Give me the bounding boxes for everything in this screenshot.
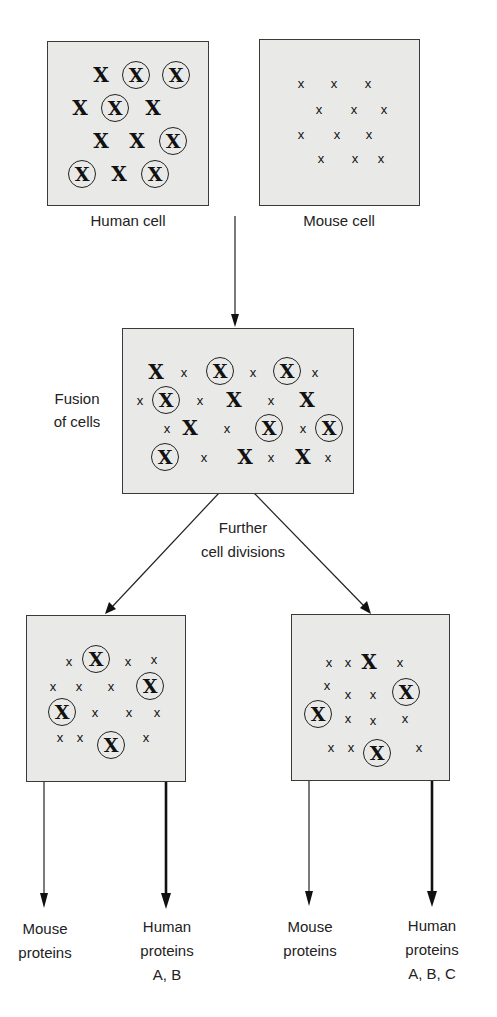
circled-human-chromosome-icon: X [315, 414, 343, 442]
circled-human-chromosome-icon: X [101, 94, 129, 122]
mouse-chromosome-icon: x [57, 731, 64, 744]
mouse-chromosome-icon: x [324, 679, 331, 692]
mouse-chromosome-icon: x [370, 714, 377, 727]
mouse-chromosome-icon: x [197, 394, 204, 407]
human-chromosome-icon: X [93, 131, 109, 151]
mouse-chromosome-icon: x [92, 706, 99, 719]
circled-human-chromosome-icon: X [151, 443, 179, 471]
mouse-chromosome-icon: x [416, 741, 423, 754]
mouse-chromosome-icon: x [268, 394, 275, 407]
circled-human-chromosome-icon: X [273, 357, 301, 385]
mouse-chromosome-icon: x [300, 422, 307, 435]
circled-human-chromosome-icon: X [304, 700, 332, 728]
circled-human-chromosome-icon: X [136, 672, 164, 700]
circled-human-chromosome-icon: X [48, 698, 76, 726]
human-chromosome-icon: X [237, 447, 253, 467]
mouse-chromosome-icon: x [316, 103, 323, 116]
fusion-label-line1: Fusion [32, 390, 122, 408]
mouse-chromosome-icon: x [224, 422, 231, 435]
circled-human-chromosome-icon: X [363, 739, 391, 767]
circled-human-chromosome-icon: X [162, 61, 190, 89]
mouse-cell-label: Mouse cell [279, 212, 399, 230]
circled-human-chromosome-icon: X [152, 386, 180, 414]
mouse-chromosome-icon: x [250, 366, 257, 379]
mouse-chromosome-icon: x [298, 128, 305, 141]
mouse-chromosome-icon: x [125, 655, 132, 668]
mouse-chromosome-icon: x [154, 706, 161, 719]
mouse-chromosome-icon: x [108, 680, 115, 693]
left-mouse-proteins-line1: Mouse [0, 920, 90, 938]
mouse-chromosome-icon: x [397, 656, 404, 669]
mouse-chromosome-icon: x [143, 731, 150, 744]
mouse-chromosome-icon: x [181, 366, 188, 379]
left-human-proteins-line3: A, B [122, 966, 212, 984]
mouse-cell [259, 39, 420, 206]
human-chromosome-icon: X [361, 652, 377, 672]
mouse-chromosome-icon: x [325, 451, 332, 464]
mouse-chromosome-icon: x [348, 741, 355, 754]
mouse-chromosome-icon: x [201, 451, 208, 464]
left-human-proteins-line2: proteins [122, 942, 212, 960]
mouse-chromosome-icon: x [312, 366, 319, 379]
mouse-chromosome-icon: x [365, 77, 372, 90]
right-human-proteins-line2: proteins [387, 941, 477, 959]
mouse-chromosome-icon: x [334, 128, 341, 141]
mouse-chromosome-icon: x [331, 77, 338, 90]
mouse-chromosome-icon: x [366, 128, 373, 141]
circled-human-chromosome-icon: X [255, 414, 283, 442]
mouse-chromosome-icon: x [76, 680, 83, 693]
mouse-chromosome-icon: x [351, 103, 358, 116]
mouse-chromosome-icon: x [402, 712, 409, 725]
mouse-chromosome-icon: x [370, 688, 377, 701]
right-mouse-proteins-line1: Mouse [265, 918, 355, 936]
mouse-chromosome-icon: x [298, 77, 305, 90]
mouse-chromosome-icon: x [378, 152, 385, 165]
mouse-chromosome-icon: x [137, 394, 144, 407]
circled-human-chromosome-icon: X [159, 127, 187, 155]
left-mouse-proteins-line2: proteins [0, 944, 90, 962]
human-chromosome-icon: X [72, 98, 88, 118]
mouse-chromosome-icon: x [66, 655, 73, 668]
right-mouse-proteins-line2: proteins [265, 942, 355, 960]
mouse-chromosome-icon: x [318, 152, 325, 165]
human-chromosome-icon: X [182, 418, 198, 438]
circled-human-chromosome-icon: X [97, 731, 125, 759]
circled-human-chromosome-icon: X [122, 61, 150, 89]
mouse-chromosome-icon: x [352, 152, 359, 165]
division-label-line2: cell divisions [183, 543, 303, 561]
human-chromosome-icon: X [295, 447, 311, 467]
human-chromosome-icon: X [299, 390, 315, 410]
mouse-chromosome-icon: x [268, 451, 275, 464]
circled-human-chromosome-icon: X [206, 357, 234, 385]
mouse-chromosome-icon: x [328, 741, 335, 754]
fusion-label-line2: of cells [32, 413, 122, 431]
left-human-proteins-line1: Human [122, 918, 212, 936]
mouse-chromosome-icon: x [50, 680, 57, 693]
mouse-chromosome-icon: x [345, 656, 352, 669]
mouse-chromosome-icon: x [345, 688, 352, 701]
right-human-proteins-line1: Human [387, 917, 477, 935]
human-chromosome-icon: X [111, 164, 127, 184]
mouse-chromosome-icon: x [151, 653, 158, 666]
circled-human-chromosome-icon: X [141, 160, 169, 188]
mouse-chromosome-icon: x [345, 712, 352, 725]
human-chromosome-icon: X [129, 131, 145, 151]
circled-human-chromosome-icon: X [82, 645, 110, 673]
human-cell-label: Human cell [68, 212, 188, 230]
human-chromosome-icon: X [145, 98, 161, 118]
circled-human-chromosome-icon: X [392, 678, 420, 706]
right-human-proteins-line3: A, B, C [387, 965, 477, 983]
division-label-line1: Further [183, 519, 303, 537]
mouse-chromosome-icon: x [126, 706, 133, 719]
mouse-chromosome-icon: x [381, 103, 388, 116]
mouse-chromosome-icon: x [164, 422, 171, 435]
mouse-chromosome-icon: x [326, 656, 333, 669]
human-chromosome-icon: X [93, 65, 109, 85]
circled-human-chromosome-icon: X [68, 160, 96, 188]
mouse-chromosome-icon: x [77, 731, 84, 744]
human-chromosome-icon: X [226, 390, 242, 410]
human-chromosome-icon: X [148, 362, 164, 382]
